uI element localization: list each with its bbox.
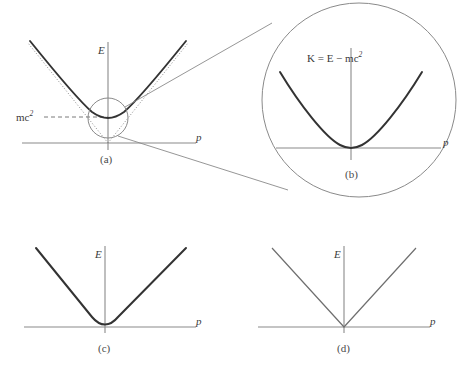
magnifier-connector-lower xyxy=(118,136,288,190)
panel-b-y-axis-label-exponent: 2 xyxy=(359,50,363,59)
magnifier-connector-upper xyxy=(125,23,272,107)
panel-a-asymptote-right xyxy=(108,43,188,143)
panel-d-x-axis-label: p xyxy=(430,315,436,327)
panel-c-caption: (c) xyxy=(98,342,110,354)
physics-figure: E p mc2 (a) K = E − mc2 p (b) E p (c) E … xyxy=(0,0,468,373)
panel-d-graphics xyxy=(258,246,430,333)
panel-c-x-axis-label: p xyxy=(196,315,202,327)
panel-d-caption: (d) xyxy=(337,342,350,354)
rest-energy-label-exponent: 2 xyxy=(29,109,33,118)
panel-b-y-axis-label-equation: K = E − mc xyxy=(307,52,359,64)
panel-a-y-axis-label: E xyxy=(98,44,105,56)
panel-d-y-axis-label: E xyxy=(334,248,341,260)
panel-c-rounded-v xyxy=(36,248,186,325)
panel-b-caption: (b) xyxy=(345,168,358,180)
rest-energy-label-base: mc xyxy=(16,111,29,123)
panel-b-x-axis-label: p xyxy=(443,136,449,148)
panel-a-x-axis-label: p xyxy=(196,131,202,143)
panel-b-y-axis-label: K = E − mc2 xyxy=(307,50,362,64)
rest-energy-label: mc2 xyxy=(16,109,33,123)
panel-c-y-axis-label: E xyxy=(95,248,102,260)
panel-a-graphics xyxy=(22,23,288,190)
panel-a-asymptote-left xyxy=(28,43,108,143)
panel-b-inset-circle xyxy=(262,3,456,197)
panel-c-graphics xyxy=(24,246,196,333)
panel-b-graphics xyxy=(262,3,456,197)
panel-a-caption: (a) xyxy=(100,153,112,165)
